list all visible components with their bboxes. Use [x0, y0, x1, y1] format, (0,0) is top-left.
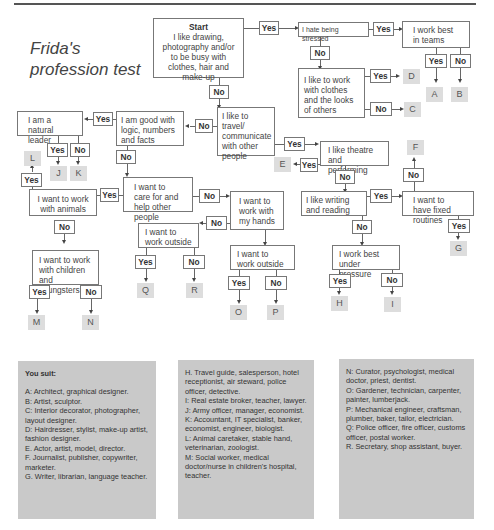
no-label: No [199, 189, 220, 203]
no-label: No [116, 150, 136, 164]
result-f: F [407, 140, 424, 155]
no-label: No [310, 46, 330, 60]
question-pressure: I work best under pressure [332, 245, 400, 270]
no-label: No [183, 255, 205, 269]
yes-label: Yes [93, 112, 113, 126]
result-o: O [230, 305, 247, 320]
no-label: No [352, 220, 372, 234]
result-p: P [267, 305, 284, 320]
yes-label: Yes [370, 69, 391, 83]
no-label: No [195, 119, 213, 133]
yes-label: Yes [370, 189, 392, 203]
yes-label: Yes [228, 276, 250, 290]
question-leader: I am a natural leader [17, 111, 83, 136]
result-b: B [451, 87, 468, 102]
result-i: I [384, 297, 401, 312]
no-label: No [70, 143, 90, 157]
result-k: K [70, 166, 87, 181]
question-travel: I like to travel/ communicate with other… [217, 107, 275, 156]
result-g: G [450, 241, 467, 256]
legend-box-1: You suit: A: Architect, graphical design… [18, 361, 156, 519]
yes-label: Yes [21, 173, 42, 187]
question-hands: I want to work with my hands [230, 191, 284, 230]
result-c: C [404, 102, 421, 117]
yes-label: Yes [135, 255, 156, 269]
result-d: D [403, 69, 420, 84]
yes-label: Yes [47, 143, 68, 157]
question-animals: I want to work with animals [29, 189, 97, 216]
question-logic: I am good with logic, numbers and facts [116, 111, 184, 146]
result-m: M [28, 315, 45, 330]
page-title: Frida's profession test [30, 38, 141, 80]
question-start: Start I like drawing, photography and/or… [153, 18, 244, 78]
no-label: No [381, 273, 403, 287]
question-children: I want to work with children and youngst… [32, 250, 99, 285]
yes-label: Yes [29, 285, 50, 299]
yes-label: Yes [448, 219, 470, 233]
no-label: No [403, 168, 424, 182]
no-label: No [80, 285, 102, 299]
no-label: No [206, 216, 227, 230]
question-clothes: I like to work with clothes and the look… [298, 68, 365, 118]
question-outside-mid: I want to work outside [230, 245, 295, 270]
no-label: No [209, 85, 229, 99]
yes-label: Yes [284, 137, 305, 151]
no-label: No [450, 54, 471, 68]
yes-label: Yes [329, 274, 351, 288]
result-h: H [331, 296, 348, 311]
yes-label: Yes [259, 21, 279, 35]
legend-box-3: N: Curator, psychologist, medical doctor… [339, 359, 474, 519]
no-label: No [54, 220, 75, 234]
result-q: Q [137, 283, 154, 298]
question-teams: I work best in teams [402, 21, 470, 48]
question-stressed: I hate being stressed [298, 22, 369, 37]
yes-label: Yes [300, 158, 318, 172]
yes-label: Yes [100, 188, 119, 202]
result-a: A [426, 87, 443, 102]
result-e: E [274, 157, 291, 172]
yes-label: Yes [425, 54, 447, 68]
result-n: N [82, 315, 99, 330]
question-writing: I like writing and reading [301, 191, 367, 216]
yes-label: Yes [373, 22, 394, 36]
result-j: J [50, 166, 67, 181]
no-label: No [265, 276, 287, 290]
result-l: L [24, 151, 41, 166]
question-outside-left: I want to work outside [138, 223, 199, 248]
question-theatre: I like theatre and performing [320, 141, 389, 166]
legend-box-2: H. Travel guide, salesperson, hotel rece… [178, 360, 314, 519]
no-label: No [370, 102, 392, 116]
question-routines: I want to have fixed routines [402, 191, 474, 216]
question-care: I want to care for and help other people [123, 177, 193, 212]
legend-heading: You suit: [25, 369, 149, 378]
top-rule [14, 3, 476, 5]
result-r: R [186, 283, 203, 298]
no-label: No [335, 170, 355, 184]
